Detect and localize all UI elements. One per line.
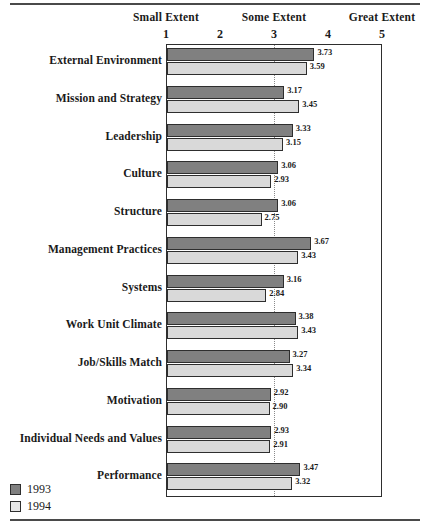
bar-group-row: Job/Skills Match3.273.34 xyxy=(0,347,428,385)
bar-value-label-1993: 3.17 xyxy=(287,85,302,95)
bar-group-row: Individual Needs and Values2.932.91 xyxy=(0,423,428,461)
bar-1993 xyxy=(167,350,290,363)
bar-1994 xyxy=(167,402,270,415)
category-label: External Environment xyxy=(49,54,162,66)
bar-value-label-1994: 2.84 xyxy=(269,288,284,298)
bar-value-label-1994: 3.43 xyxy=(301,325,316,335)
chart-legend: 19931994 xyxy=(10,481,130,515)
bar-1993 xyxy=(167,388,271,401)
bar-1994 xyxy=(167,440,270,453)
bar-group-row: Mission and Strategy3.173.45 xyxy=(0,83,428,121)
bar-value-label-1993: 2.93 xyxy=(274,425,289,435)
bar-value-label-1993: 3.16 xyxy=(287,274,302,284)
bar-group-row: Work Unit Climate3.383.43 xyxy=(0,309,428,347)
bar-group-row: Culture3.062.93 xyxy=(0,158,428,196)
bar-1993 xyxy=(167,426,271,439)
bar-value-label-1994: 3.43 xyxy=(301,250,316,260)
category-label: Culture xyxy=(123,167,162,179)
bar-value-label-1994: 3.32 xyxy=(295,476,310,486)
bar-1994 xyxy=(167,100,299,113)
category-label: Work Unit Climate xyxy=(66,318,162,330)
legend-swatch-icon xyxy=(10,501,21,512)
bar-value-label-1993: 3.67 xyxy=(314,236,329,246)
axis-caption-3: Great Extent xyxy=(349,11,415,23)
bar-rows: External Environment3.733.59Mission and … xyxy=(0,44,428,497)
top-divider-rule xyxy=(10,3,420,5)
x-axis-tick-3: 3 xyxy=(271,27,277,42)
x-axis-tick-5: 5 xyxy=(379,27,385,42)
axis-caption-1: Small Extent xyxy=(133,11,199,23)
bar-1994 xyxy=(167,289,266,302)
category-label: Structure xyxy=(114,205,162,217)
bar-1994 xyxy=(167,251,298,264)
bar-value-label-1993: 3.73 xyxy=(317,47,332,57)
bar-1994 xyxy=(167,364,293,377)
bar-group-row: Motivation2.922.90 xyxy=(0,385,428,423)
category-label: Job/Skills Match xyxy=(78,356,162,368)
axis-caption-row: Small ExtentSome ExtentGreat Extent xyxy=(0,11,428,25)
bar-group-row: Systems3.162.84 xyxy=(0,272,428,310)
bar-value-label-1994: 2.75 xyxy=(265,212,280,222)
bar-1994 xyxy=(167,326,298,339)
axis-caption-2: Some Extent xyxy=(242,11,306,23)
bar-value-label-1994: 3.15 xyxy=(286,137,301,147)
bar-value-label-1994: 2.93 xyxy=(274,174,289,184)
bar-value-label-1993: 3.38 xyxy=(299,311,314,321)
x-axis-tick-4: 4 xyxy=(325,27,331,42)
bar-1994 xyxy=(167,62,307,75)
bar-value-label-1994: 3.59 xyxy=(310,61,325,71)
axis-tick-row: 12345 xyxy=(0,27,428,41)
category-label: Motivation xyxy=(107,394,162,406)
bar-1993 xyxy=(167,312,296,325)
bar-group-row: Structure3.062.75 xyxy=(0,196,428,234)
bar-1993 xyxy=(167,86,284,99)
bar-value-label-1993: 3.06 xyxy=(281,160,296,170)
category-label: Systems xyxy=(122,281,162,293)
legend-label: 1994 xyxy=(27,499,51,514)
bar-value-label-1994: 2.90 xyxy=(273,401,288,411)
category-label: Management Practices xyxy=(48,243,162,255)
category-label: Performance xyxy=(97,469,162,481)
bar-1993 xyxy=(167,237,311,250)
bottom-divider-rule xyxy=(10,519,420,521)
x-axis-tick-1: 1 xyxy=(163,27,169,42)
bar-1993 xyxy=(167,275,284,288)
bar-value-label-1993: 3.27 xyxy=(293,349,308,359)
bar-1993 xyxy=(167,199,278,212)
bar-1994 xyxy=(167,477,292,490)
legend-swatch-icon xyxy=(10,484,21,495)
bar-group-row: External Environment3.733.59 xyxy=(0,45,428,83)
bar-value-label-1993: 3.06 xyxy=(281,198,296,208)
bar-1993 xyxy=(167,124,293,137)
bar-group-row: Leadership3.333.15 xyxy=(0,121,428,159)
bar-value-label-1994: 3.34 xyxy=(296,363,311,373)
category-label: Individual Needs and Values xyxy=(20,432,162,444)
bar-value-label-1994: 3.45 xyxy=(302,99,317,109)
bar-1993 xyxy=(167,463,300,476)
x-axis-tick-2: 2 xyxy=(217,27,223,42)
bar-1993 xyxy=(167,48,314,61)
bar-value-label-1993: 3.47 xyxy=(303,462,318,472)
bar-1993 xyxy=(167,161,278,174)
legend-item-1994: 1994 xyxy=(10,498,130,515)
bar-value-label-1993: 2.92 xyxy=(274,387,289,397)
bar-1994 xyxy=(167,213,262,226)
bar-value-label-1994: 2.91 xyxy=(273,439,288,449)
bar-value-label-1993: 3.33 xyxy=(296,123,311,133)
bar-1994 xyxy=(167,175,271,188)
bar-group-row: Management Practices3.673.43 xyxy=(0,234,428,272)
category-label: Leadership xyxy=(105,130,162,142)
category-label: Mission and Strategy xyxy=(56,92,162,104)
legend-item-1993: 1993 xyxy=(10,481,130,498)
bar-1994 xyxy=(167,138,283,151)
legend-label: 1993 xyxy=(27,482,51,497)
